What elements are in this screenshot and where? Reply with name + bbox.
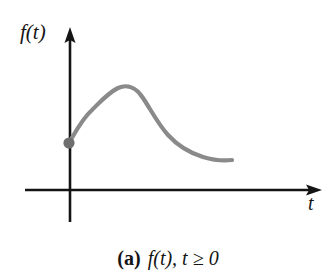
function-curve: [69, 86, 232, 160]
initial-value-dot: [63, 137, 74, 148]
x-axis-label: t: [308, 193, 314, 213]
figure-caption: (a)f(t), t ≥ 0: [0, 246, 336, 271]
figure-container: f(t) t (a)f(t), t ≥ 0: [0, 0, 336, 276]
plot-canvas: [0, 0, 336, 276]
caption-expression: f(t), t ≥ 0: [148, 247, 219, 269]
caption-tag: (a): [117, 247, 140, 269]
y-axis-label: f(t): [20, 22, 46, 43]
